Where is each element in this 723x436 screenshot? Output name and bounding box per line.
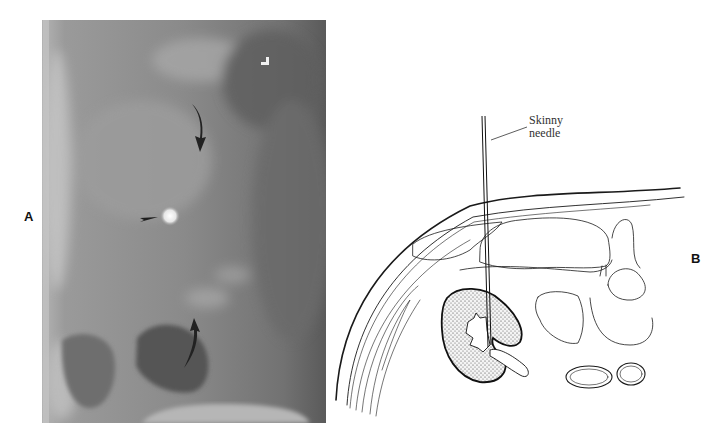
panel-label-a: A: [24, 209, 33, 224]
xray-image: [42, 20, 326, 423]
anatomical-diagram: [330, 100, 723, 436]
contrast-opacity: [160, 206, 180, 226]
needle-callout: Skinny needle: [529, 114, 563, 140]
skin-line: [336, 188, 680, 400]
callout-line2: needle: [529, 127, 563, 140]
callout-leader-line: [491, 127, 527, 140]
